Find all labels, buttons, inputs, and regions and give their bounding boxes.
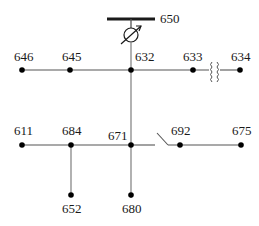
switch-icon	[157, 133, 168, 145]
label-632: 632	[135, 50, 155, 63]
node-692[interactable]	[177, 142, 183, 148]
node-632[interactable]	[128, 67, 134, 73]
label-646: 646	[14, 50, 34, 63]
label-652: 652	[62, 202, 82, 215]
node-652[interactable]	[68, 192, 74, 198]
node-645[interactable]	[67, 67, 73, 73]
label-650: 650	[160, 12, 180, 25]
node-684[interactable]	[68, 142, 74, 148]
label-645: 645	[62, 50, 82, 63]
label-611: 611	[14, 124, 33, 137]
label-633: 633	[183, 50, 203, 63]
node-675[interactable]	[238, 142, 244, 148]
label-634: 634	[231, 50, 251, 63]
node-611[interactable]	[19, 142, 25, 148]
node-671[interactable]	[128, 142, 134, 148]
node-646[interactable]	[19, 67, 25, 73]
label-671: 671	[108, 129, 128, 142]
label-692: 692	[171, 124, 191, 137]
regulator-icon	[121, 26, 141, 44]
node-634[interactable]	[237, 67, 243, 73]
node-680[interactable]	[128, 192, 134, 198]
transformer-icon	[211, 62, 219, 82]
label-675: 675	[232, 124, 252, 137]
label-684: 684	[62, 124, 82, 137]
label-680: 680	[122, 202, 142, 215]
feeder-diagram	[0, 0, 259, 226]
node-633[interactable]	[190, 67, 196, 73]
